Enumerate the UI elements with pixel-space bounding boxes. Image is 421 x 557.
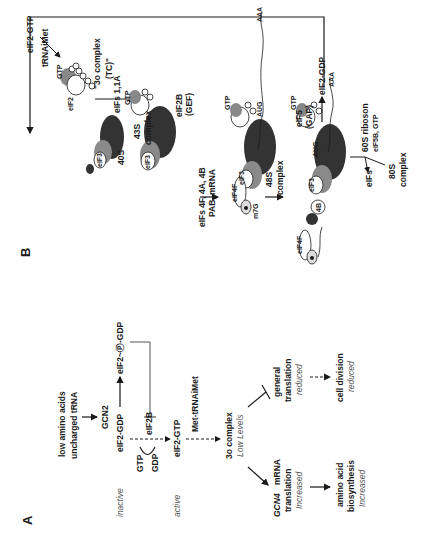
division-effect-label: reduced xyxy=(346,361,356,392)
figure-canvas: B eIF2-GTP tRNAiMet eIF2 GTP "3o complex xyxy=(0,0,421,557)
s80-label-2: complex xyxy=(398,152,408,187)
tc-gtp-label: GTP xyxy=(56,64,63,79)
eif2-label: eIF2 xyxy=(67,97,74,111)
phospho-eif2-label: eIF2~Ⓟ-GDP xyxy=(115,321,125,374)
eif4f-label-48s: eIF4F xyxy=(231,183,238,202)
met-trna-label: Met-tRNAiMet xyxy=(190,376,200,432)
eif4a-circle xyxy=(306,213,318,225)
trna-label: tRNAiMet xyxy=(40,29,50,67)
biosynthesis-label-2: biosynthesis xyxy=(346,460,356,512)
eifs-4f-label-1: eIFs 4F, 4A, 4B xyxy=(197,167,207,227)
s60-label-2: eIF5B, GTP xyxy=(372,114,380,152)
aaa-label-48s: AAA xyxy=(256,7,263,22)
gtp-label-48s: GTP xyxy=(224,95,231,110)
m7g-label: m7G xyxy=(252,203,259,219)
gtp-label-43s: GTP xyxy=(124,90,131,105)
tc-label-1: "3o complex xyxy=(92,38,102,89)
panel-a: A low amino acids uncharged tRNA GCN2 in… xyxy=(20,321,367,525)
eif2b-label-a: eIF2B xyxy=(144,412,154,435)
gtp-label-80s: GTP xyxy=(290,95,297,110)
eif4f-label-80s: eIF4F xyxy=(296,235,303,254)
eifs-4f-label-2: PAB, mRNA xyxy=(207,169,217,217)
gcn4-gene: GCN4 xyxy=(272,493,282,517)
ternary-complex-label: 3o complex xyxy=(224,412,234,459)
eif2-gdp-label-b: eIF2-GDP xyxy=(317,56,327,95)
s40-label: 40S xyxy=(116,150,126,165)
panel-b-label: B xyxy=(18,248,33,257)
eifs-11a-label: eIFs 1,1A xyxy=(112,76,122,113)
s48-label-1: 48S xyxy=(264,172,274,187)
gcn4-effect-label: Increased xyxy=(294,471,304,509)
eif3-label-40s: eIF3 xyxy=(96,153,103,167)
s43-label-2: complex xyxy=(143,110,153,145)
eif5-label-1: eIF5 xyxy=(294,110,304,127)
s80-label-1: 80S xyxy=(387,164,397,179)
general-label-2: translation xyxy=(283,359,293,402)
eif5-label-2: (GAP) xyxy=(304,105,314,129)
aug-label-80s: AUG xyxy=(312,141,319,157)
panel-a-label: A xyxy=(20,515,35,525)
inactive-label: inactive xyxy=(115,488,125,517)
general-effect-label: reduced xyxy=(294,364,304,395)
general-inhibit-bar xyxy=(262,385,270,399)
gdp-label-a: GDP xyxy=(150,453,160,472)
eif4b-label: 4B xyxy=(315,203,322,212)
stress-line-1: low amino acids xyxy=(57,391,67,457)
biosynthesis-effect-label: Increased xyxy=(357,469,367,507)
gcn4-label: GCN4 xyxy=(272,493,282,517)
eif2-gdp-label-a: eIF2-GDP xyxy=(115,413,125,452)
s48-label-2: complex xyxy=(275,160,285,195)
gcn2-label: GCN2 xyxy=(100,405,110,429)
eif3-label-80s: eIF3 xyxy=(308,178,315,192)
eif2b-gef-label-2: (GEF) xyxy=(184,93,194,116)
gcn4-branch-arrow xyxy=(248,467,268,485)
eif2-gtp-label: eIF2-GTP xyxy=(25,15,35,53)
general-label-1: general xyxy=(272,367,282,397)
panel-b: B eIF2-GTP tRNAiMet eIF2 GTP "3o complex xyxy=(18,7,408,264)
general-branch-line xyxy=(248,392,266,407)
stress-line-2: uncharged tRNA xyxy=(69,392,79,459)
inhibition-line xyxy=(130,342,150,417)
s60-label-1: 60S riboson xyxy=(360,103,370,152)
eif2b-gef-label-1: eIF2B xyxy=(174,94,184,117)
gtp-label-a: GTP xyxy=(135,454,145,472)
ternary-complex xyxy=(60,63,95,95)
eif2-gtp-label-a: eIF2-GTP xyxy=(172,419,182,457)
biosynthesis-label-1: amino acid xyxy=(335,463,345,507)
aaa-label-80s: AAA xyxy=(328,72,335,87)
gcn4-translation-label: translation xyxy=(283,469,293,512)
s43-label-1: 43S xyxy=(132,124,142,139)
gtp-gdp-bracket xyxy=(140,447,155,455)
division-label: cell division xyxy=(335,353,345,402)
eif3-label-43s: eIF3 xyxy=(144,155,151,169)
s80-line xyxy=(365,157,385,165)
gcn4-mrna-label: mRNA xyxy=(272,459,282,485)
aug-label-48s: AUG xyxy=(256,101,263,117)
eifs-label: eIFs xyxy=(364,170,374,187)
ternary-level-label: Low Levels xyxy=(235,414,245,457)
eifs-release-arrow xyxy=(350,157,368,172)
active-label: active xyxy=(172,495,182,517)
eif3-label-48s: eIF3 xyxy=(238,171,245,185)
